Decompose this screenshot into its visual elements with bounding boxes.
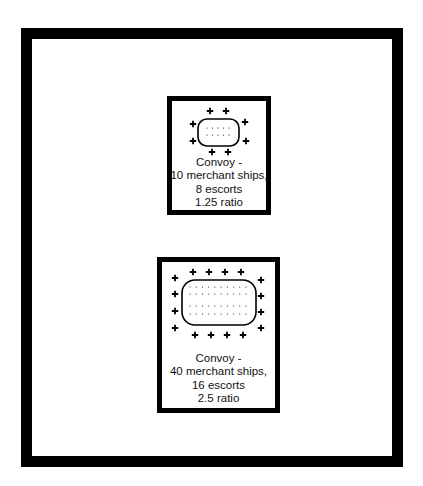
caption-merchant-ships: 10 merchant ships, [167, 169, 271, 182]
caption-escorts: 8 escorts [167, 183, 271, 196]
caption-ratio: 2.5 ratio [157, 392, 280, 405]
caption-escorts: 16 escorts [157, 379, 280, 392]
convoy-caption-small: Convoy - 10 merchant ships, 8 escorts 1.… [167, 156, 271, 209]
caption-title: Convoy - [167, 156, 271, 169]
caption-title: Convoy - [157, 352, 280, 365]
caption-ratio: 1.25 ratio [167, 196, 271, 209]
convoy-caption-large: Convoy - 40 merchant ships, 16 escorts 2… [157, 352, 280, 405]
caption-merchant-ships: 40 merchant ships, [157, 365, 280, 378]
